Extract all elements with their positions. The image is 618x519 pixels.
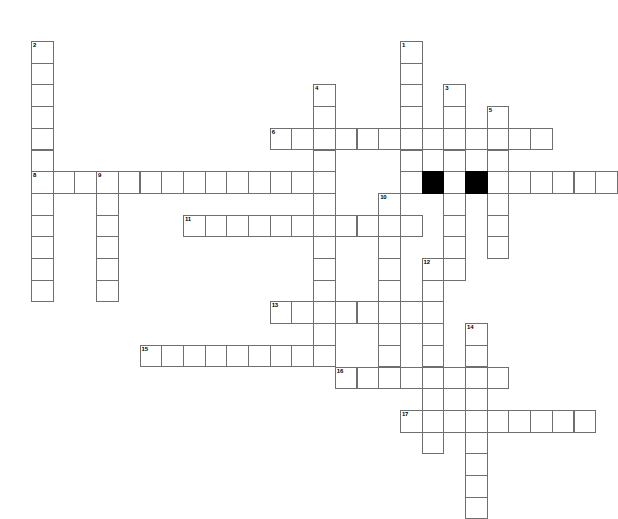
grid-cell[interactable] bbox=[530, 410, 553, 433]
grid-cell[interactable] bbox=[161, 345, 184, 368]
grid-cell[interactable]: 17 bbox=[400, 410, 423, 433]
grid-cell[interactable] bbox=[400, 63, 423, 86]
grid-cell[interactable] bbox=[291, 301, 314, 324]
grid-cell[interactable] bbox=[313, 215, 336, 238]
grid-cell[interactable] bbox=[96, 193, 119, 216]
grid-cell[interactable] bbox=[270, 345, 293, 368]
grid-cell[interactable] bbox=[96, 280, 119, 303]
grid-cell[interactable] bbox=[291, 345, 314, 368]
grid-cell[interactable] bbox=[313, 150, 336, 173]
grid-cell[interactable] bbox=[357, 128, 380, 151]
grid-cell[interactable]: 8 bbox=[31, 171, 54, 194]
grid-cell[interactable] bbox=[443, 128, 466, 151]
grid-cell[interactable] bbox=[31, 215, 54, 238]
grid-cell[interactable] bbox=[270, 171, 293, 194]
grid-cell[interactable] bbox=[313, 301, 336, 324]
grid-cell[interactable]: 4 bbox=[313, 84, 336, 107]
grid-cell[interactable] bbox=[465, 410, 488, 433]
grid-cell[interactable] bbox=[31, 63, 54, 86]
grid-cell[interactable] bbox=[465, 345, 488, 368]
grid-cell[interactable] bbox=[422, 323, 445, 346]
grid-cell[interactable] bbox=[118, 171, 141, 194]
grid-cell[interactable] bbox=[205, 345, 228, 368]
grid-cell[interactable] bbox=[422, 367, 445, 390]
grid-cell[interactable] bbox=[74, 171, 97, 194]
grid-cell[interactable]: 9 bbox=[96, 171, 119, 194]
grid-cell[interactable] bbox=[487, 215, 510, 238]
grid-cell[interactable] bbox=[205, 171, 228, 194]
grid-cell[interactable] bbox=[487, 171, 510, 194]
grid-cell[interactable] bbox=[443, 171, 466, 194]
grid-cell[interactable] bbox=[378, 215, 401, 238]
grid-cell[interactable] bbox=[378, 367, 401, 390]
grid-cell[interactable] bbox=[465, 388, 488, 411]
grid-cell[interactable] bbox=[31, 84, 54, 107]
grid-cell[interactable] bbox=[465, 128, 488, 151]
grid-cell[interactable] bbox=[574, 171, 597, 194]
grid-cell[interactable] bbox=[400, 84, 423, 107]
grid-cell[interactable] bbox=[96, 258, 119, 281]
grid-cell[interactable] bbox=[443, 367, 466, 390]
grid-cell[interactable] bbox=[400, 128, 423, 151]
grid-cell[interactable]: 10 bbox=[378, 193, 401, 216]
grid-cell[interactable] bbox=[487, 410, 510, 433]
grid-cell[interactable] bbox=[313, 345, 336, 368]
grid-cell[interactable] bbox=[487, 193, 510, 216]
grid-cell[interactable] bbox=[422, 410, 445, 433]
grid-cell[interactable] bbox=[400, 150, 423, 173]
grid-cell[interactable] bbox=[31, 258, 54, 281]
grid-cell[interactable] bbox=[443, 106, 466, 129]
grid-cell[interactable] bbox=[487, 150, 510, 173]
grid-cell[interactable] bbox=[487, 236, 510, 259]
grid-cell[interactable] bbox=[313, 128, 336, 151]
grid-cell[interactable] bbox=[465, 497, 488, 519]
grid-cell[interactable] bbox=[465, 367, 488, 390]
grid-cell[interactable] bbox=[205, 215, 228, 238]
grid-cell[interactable] bbox=[508, 410, 531, 433]
grid-cell[interactable] bbox=[31, 280, 54, 303]
grid-cell[interactable] bbox=[183, 345, 206, 368]
grid-cell[interactable] bbox=[400, 301, 423, 324]
grid-cell[interactable] bbox=[313, 193, 336, 216]
grid-cell[interactable] bbox=[53, 171, 76, 194]
grid-cell[interactable] bbox=[357, 215, 380, 238]
grid-cell[interactable] bbox=[357, 301, 380, 324]
grid-cell[interactable] bbox=[31, 193, 54, 216]
grid-cell[interactable] bbox=[313, 280, 336, 303]
grid-cell[interactable]: 16 bbox=[335, 367, 358, 390]
grid-cell[interactable] bbox=[552, 410, 575, 433]
grid-cell[interactable] bbox=[378, 301, 401, 324]
grid-cell[interactable] bbox=[96, 236, 119, 259]
grid-cell[interactable] bbox=[422, 345, 445, 368]
grid-cell[interactable] bbox=[400, 215, 423, 238]
grid-cell[interactable] bbox=[31, 128, 54, 151]
grid-cell[interactable] bbox=[465, 475, 488, 498]
grid-cell[interactable] bbox=[378, 258, 401, 281]
grid-cell[interactable] bbox=[357, 367, 380, 390]
grid-cell[interactable] bbox=[443, 258, 466, 281]
grid-cell[interactable] bbox=[313, 323, 336, 346]
grid-cell[interactable] bbox=[443, 150, 466, 173]
grid-cell[interactable] bbox=[552, 171, 575, 194]
grid-cell[interactable]: 1 bbox=[400, 41, 423, 64]
grid-cell[interactable] bbox=[443, 410, 466, 433]
grid-cell[interactable] bbox=[248, 215, 271, 238]
grid-cell[interactable] bbox=[422, 432, 445, 455]
grid-cell[interactable]: 15 bbox=[140, 345, 163, 368]
grid-cell[interactable] bbox=[31, 236, 54, 259]
grid-cell[interactable]: 5 bbox=[487, 106, 510, 129]
grid-cell[interactable] bbox=[400, 367, 423, 390]
grid-cell[interactable]: 2 bbox=[31, 41, 54, 64]
grid-cell[interactable] bbox=[574, 410, 597, 433]
grid-cell[interactable] bbox=[313, 171, 336, 194]
grid-cell[interactable]: 6 bbox=[270, 128, 293, 151]
grid-cell[interactable]: 12 bbox=[422, 258, 445, 281]
grid-cell[interactable]: 3 bbox=[443, 84, 466, 107]
grid-cell[interactable] bbox=[530, 128, 553, 151]
grid-cell[interactable] bbox=[378, 345, 401, 368]
grid-cell[interactable] bbox=[335, 301, 358, 324]
grid-cell[interactable] bbox=[291, 128, 314, 151]
grid-cell[interactable] bbox=[291, 171, 314, 194]
grid-cell[interactable] bbox=[140, 171, 163, 194]
grid-cell[interactable] bbox=[248, 171, 271, 194]
